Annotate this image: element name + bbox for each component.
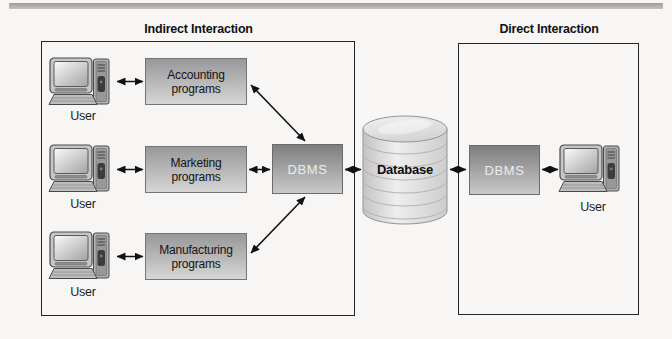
user-computer-icon: [48, 57, 118, 109]
user-computer-icon: [48, 144, 118, 196]
dbms-box-indirect: DBMS: [272, 144, 343, 194]
keyboard: [49, 95, 97, 105]
user-computer-icon: [558, 144, 628, 196]
marketing-programs-box: Marketing programs: [145, 146, 247, 193]
manufacturing-programs-box: Manufacturing programs: [145, 233, 247, 280]
accounting-programs-box: Accounting programs: [145, 58, 247, 105]
tower-case: [604, 146, 620, 191]
user-label: User: [48, 110, 118, 123]
direct-section-title: Direct Interaction: [458, 22, 640, 36]
user-computer-icon: [48, 231, 118, 283]
keyboard: [559, 182, 607, 192]
tower-case: [94, 146, 110, 191]
top-rule: [9, 3, 663, 9]
database-label: Database: [360, 162, 450, 177]
user-label: User: [48, 286, 118, 299]
crt-monitor: [50, 58, 92, 93]
marketing-programs-label: Marketing programs: [146, 156, 246, 184]
indirect-section-title: Indirect Interaction: [41, 22, 356, 36]
tower-case: [94, 233, 110, 278]
dbms-box-direct: DBMS: [469, 145, 540, 195]
crt-monitor: [560, 145, 602, 180]
tower-case: [94, 59, 110, 104]
figure-canvas: Indirect Interaction Direct Interaction: [0, 0, 672, 339]
keyboard: [49, 182, 97, 192]
accounting-programs-label: Accounting programs: [146, 68, 246, 96]
crt-monitor: [50, 145, 92, 180]
dbms-label: DBMS: [485, 163, 525, 178]
user-label: User: [48, 198, 118, 211]
user-label: User: [558, 201, 628, 214]
manufacturing-programs-label: Manufacturing programs: [146, 243, 246, 271]
keyboard: [49, 269, 97, 279]
dbms-label: DBMS: [288, 162, 328, 177]
crt-monitor: [50, 232, 92, 267]
